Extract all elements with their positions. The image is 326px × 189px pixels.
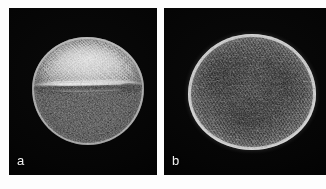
panel-b: b — [164, 8, 326, 175]
panel-label-b: b — [172, 154, 179, 167]
panel-label-a: a — [17, 154, 24, 167]
colpus-distal-end — [120, 83, 140, 93]
pollen-sem-figure: a b — [0, 0, 326, 189]
grain-rim-b — [188, 34, 316, 150]
pollen-grain-equatorial-view — [32, 37, 144, 145]
panel-a: a — [9, 8, 157, 175]
pollen-grain-polar-view — [188, 34, 316, 150]
